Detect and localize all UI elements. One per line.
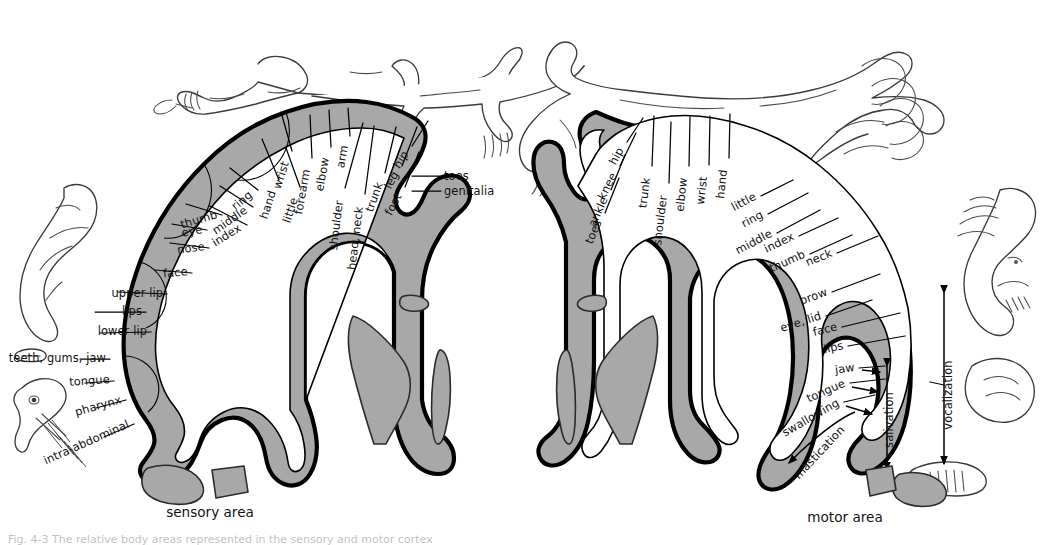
fragment-top-motor	[577, 295, 606, 311]
label-genitalia: genitalia	[444, 184, 494, 198]
label-lips: lips	[822, 338, 844, 356]
label-jaw: jaw	[833, 360, 856, 377]
label-wrist: wrist	[693, 175, 710, 205]
label-tongue: tongue	[69, 372, 111, 389]
label-salivation: salivation	[882, 392, 896, 448]
label-teeth-gums-jaw: teeth, gums, jaw	[9, 351, 106, 365]
fragment-top-sensory	[400, 295, 429, 311]
motor-face-drawings	[908, 188, 1035, 496]
label-toes: toes	[444, 169, 469, 183]
figure-caption-text: Fig. 4-3 The relative body areas represe…	[8, 533, 433, 545]
motor-area-label: motor area	[807, 509, 882, 525]
sensory-panel: wristhandlittleringmiddleindexthumbeyeno…	[9, 48, 584, 486]
sensory-face-drawings	[14, 185, 97, 467]
sensory-area-label: sensory area	[166, 504, 254, 520]
leader-line	[844, 395, 875, 402]
area-labels: sensory area motor area	[166, 504, 883, 525]
homunculus-figure: wristhandlittleringmiddleindexthumbeyeno…	[0, 0, 1044, 545]
sensory-area-icon-blobs	[142, 465, 248, 504]
label-upper-lip: upper lip	[112, 286, 163, 300]
swallowing-arrow	[846, 406, 872, 414]
homunculus-diagram-canvas: wristhandlittleringmiddleindexthumbeyeno…	[0, 0, 1044, 545]
figure-caption: Fig. 4-3 The relative body areas represe…	[8, 533, 433, 545]
tongue-arrow	[852, 387, 878, 392]
label-vocalization: vocalization	[941, 360, 955, 429]
label-intra-abdominal: intra-abdominal	[41, 417, 131, 467]
label-face: face	[162, 264, 188, 281]
label-lips: lips	[122, 304, 142, 318]
label-lower-lip: lower lip	[98, 324, 147, 338]
label-pharynx: pharynx	[73, 392, 123, 419]
fragment-sensory-thin	[432, 350, 451, 444]
motor-panel: hipkneeankletoestrunkshoulderelbowwristh…	[520, 42, 1036, 496]
